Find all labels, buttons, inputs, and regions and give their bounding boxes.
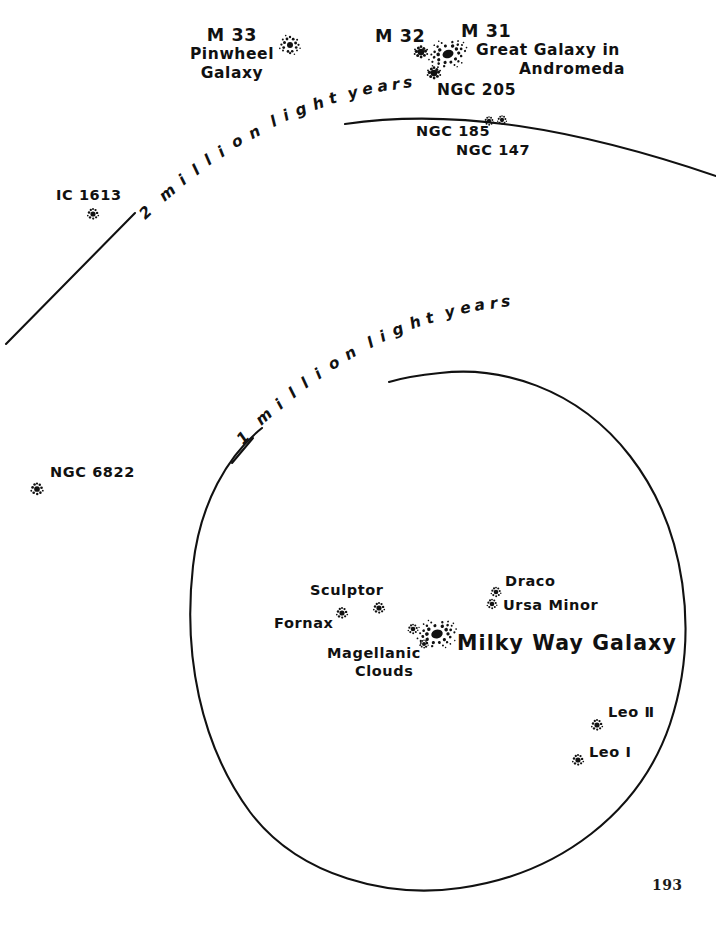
- object-glyph-draco: [491, 587, 502, 597]
- object-glyph-fornax: [336, 607, 348, 619]
- ring-2mly-arc: [6, 119, 716, 344]
- object-glyph-ngc205: [427, 66, 442, 79]
- page-number: 193: [652, 877, 682, 893]
- object-label-sculptor: Sculptor: [310, 583, 384, 598]
- object-label-leo2: Leo Ⅱ: [608, 705, 655, 720]
- object-glyph-ngc6822: [30, 483, 43, 496]
- object-label-m33: M 33: [196, 26, 268, 45]
- object-label-milkyway: Milky Way Galaxy: [457, 633, 677, 655]
- object-label-fornax: Fornax: [274, 616, 334, 631]
- caption-letter: s: [500, 292, 511, 311]
- figure-canvas: M 33 Pinwheel Galaxy M 32 M 31 Great Gal…: [0, 0, 716, 927]
- object-label-m32: M 32: [375, 27, 425, 46]
- object-sublabel-m31-line1: Great Galaxy in: [476, 42, 620, 58]
- object-label-ngc6822: NGC 6822: [50, 465, 135, 480]
- object-sublabel-m33-line1: Pinwheel: [186, 46, 278, 62]
- object-label-magellanic-line1: Magellanic: [327, 646, 421, 661]
- object-label-ngc185: NGC 185: [416, 124, 490, 139]
- object-glyph-leo1: [572, 754, 584, 766]
- object-glyph-ursaminor: [487, 599, 498, 609]
- object-glyph-sculptor: [373, 602, 385, 614]
- object-sublabel-m33-line2: Galaxy: [186, 65, 278, 81]
- object-label-ngc147: NGC 147: [456, 143, 530, 158]
- object-glyph-ic1613: [87, 208, 99, 220]
- object-sublabel-m31-line2: Andromeda: [519, 61, 625, 77]
- object-label-magellanic-line2: Clouds: [355, 664, 414, 679]
- object-label-ngc205: NGC 205: [437, 82, 516, 98]
- object-label-m31: M 31: [461, 22, 511, 41]
- object-label-draco: Draco: [505, 574, 556, 589]
- caption-letter: s: [402, 73, 413, 92]
- object-label-ic1613: IC 1613: [56, 188, 122, 203]
- object-glyph-m32: [414, 45, 429, 58]
- object-glyph-magellanic-large: [408, 624, 419, 634]
- object-label-ursaminor: Ursa Minor: [503, 598, 598, 613]
- object-label-leo1: Leo Ⅰ: [589, 745, 631, 760]
- object-glyph-m33: [279, 35, 301, 55]
- object-glyph-leo2: [591, 719, 603, 731]
